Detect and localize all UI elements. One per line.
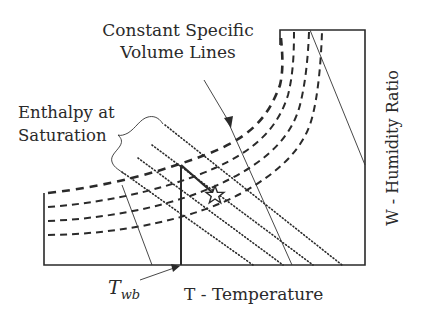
volume-line-right bbox=[310, 30, 365, 165]
volume-title-line1: Constant Specific bbox=[102, 20, 253, 40]
specific-volume-lines bbox=[122, 30, 365, 265]
enthalpy-line-2 bbox=[152, 145, 313, 265]
enthalpy-line-3 bbox=[138, 158, 283, 265]
enthalpy-line-4 bbox=[122, 172, 253, 265]
x-axis-label: T - Temperature bbox=[184, 284, 323, 304]
enthalpy-label-line1: Enthalpy at bbox=[18, 103, 115, 122]
twb-arrow-shaft bbox=[140, 268, 174, 280]
axis-frame bbox=[44, 30, 365, 265]
twb-label: Twb bbox=[108, 276, 140, 302]
psychrometric-diagram: Constant Specific Volume Lines Enthalpy … bbox=[0, 0, 421, 314]
wet-bulb-process-line bbox=[181, 165, 213, 193]
enthalpy-lines bbox=[122, 125, 342, 265]
enthalpy-label-line2: Saturation bbox=[18, 126, 107, 145]
volume-callout-arrow bbox=[204, 80, 233, 128]
enthalpy-brace bbox=[112, 117, 163, 174]
arrow-shaft bbox=[204, 80, 229, 122]
chart-frame bbox=[44, 30, 365, 265]
volume-title-line2: Volume Lines bbox=[119, 42, 235, 62]
twb-subscript: wb bbox=[121, 287, 140, 302]
arrowhead-icon bbox=[224, 116, 233, 128]
twb-arrow bbox=[140, 264, 180, 280]
y-axis-label: W - Humidity Ratio bbox=[383, 70, 402, 226]
wet-bulb-construction bbox=[181, 165, 224, 265]
